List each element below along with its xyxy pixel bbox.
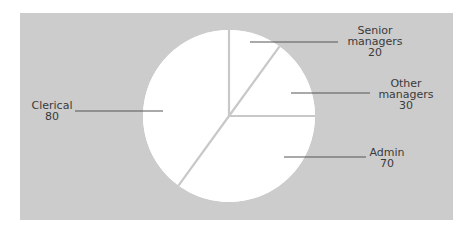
label-clerical: Clerical 80	[28, 100, 76, 122]
label-senior-managers-value: 20	[340, 47, 410, 58]
label-other-managers: Other managers 30	[371, 78, 441, 111]
label-clerical-value: 80	[28, 111, 76, 122]
label-other-managers-value: 30	[371, 100, 441, 111]
label-admin: Admin 70	[362, 147, 412, 169]
label-senior-managers: Senior managers 20	[340, 25, 410, 58]
label-admin-value: 70	[362, 158, 412, 169]
